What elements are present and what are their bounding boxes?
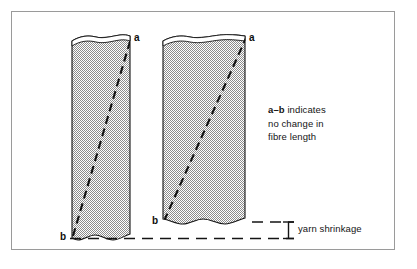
point-label-b-after: b [152,216,158,226]
fabric-column-after [163,35,246,224]
fabric-column-before [72,35,131,240]
note-line-1-rest: indicates [285,104,326,115]
point-label-a-before: a [134,33,140,43]
figure-root: a b a b a–b indicates no change in fibre… [0,0,417,269]
note-line-1: a–b indicates [268,103,388,117]
note-line-2: no change in [268,117,388,131]
point-label-a-after: a [249,33,255,43]
note-emphasis: a–b [268,104,285,115]
note-line-3: fibre length [268,130,388,144]
point-label-b-before: b [60,232,66,242]
annotation-note: a–b indicates no change in fibre length [268,103,388,144]
yarn-shrinkage-label: yarn shrinkage [298,223,362,235]
